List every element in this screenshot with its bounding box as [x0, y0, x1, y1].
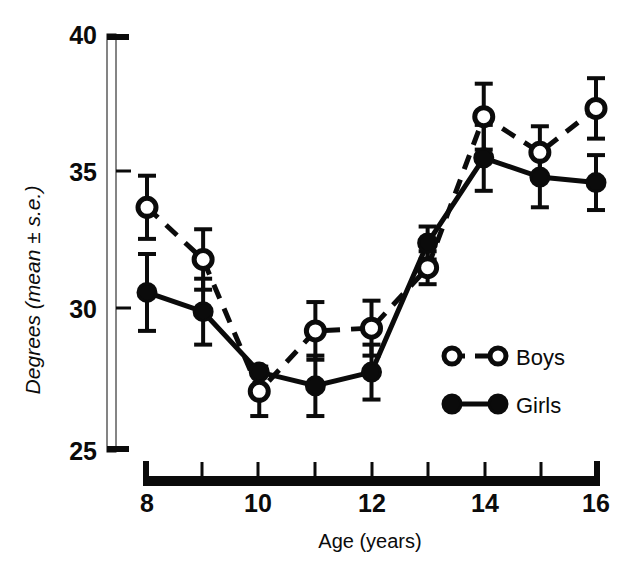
y-axis-spine: [107, 34, 116, 452]
legend-marker-boys-right: [490, 348, 506, 364]
data-point-girls-age-11: [306, 377, 324, 395]
legend-label-boys: Boys: [516, 345, 565, 370]
y-tick-label-35: 35: [69, 158, 97, 186]
data-point-girls-age-8: [138, 283, 156, 301]
y-axis-bottom-cap: [107, 446, 129, 452]
data-point-girls-age-13: [419, 234, 437, 252]
legend-entry-boys: Boys: [444, 345, 565, 370]
data-point-boys-age-12: [363, 319, 381, 337]
x-axis-title: Age (years): [318, 530, 421, 552]
chart-figure: 40 35 30 25 Degrees (mean ± s.e.) 8 10 1…: [0, 0, 627, 577]
y-tick-label-40: 40: [69, 21, 97, 49]
y-tick-label-25: 25: [69, 437, 97, 465]
data-point-girls-age-14: [475, 149, 493, 167]
data-point-boys-age-9: [194, 250, 212, 268]
legend-marker-girls-right: [489, 395, 507, 413]
data-point-girls-age-10: [250, 363, 268, 381]
x-tick-label-16: 16: [582, 489, 610, 517]
data-point-boys-age-10: [250, 382, 268, 400]
data-point-boys-age-14: [475, 108, 493, 126]
legend-entry-girls: Girls: [443, 393, 561, 418]
data-point-girls-age-12: [363, 363, 381, 381]
x-tick-label-10: 10: [244, 489, 272, 517]
y-axis-title: Degrees (mean ± s.e.): [21, 186, 44, 395]
chart-plot-area: 40 35 30 25 Degrees (mean ± s.e.) 8 10 1…: [0, 0, 627, 577]
legend-marker-boys-left: [444, 348, 460, 364]
x-tick-label-12: 12: [358, 489, 386, 517]
y-axis-top-cap: [107, 34, 129, 40]
y-tick-label-30: 30: [69, 295, 97, 323]
data-point-girls-age-15: [531, 168, 549, 186]
data-point-boys-age-15: [531, 143, 549, 161]
data-point-boys-age-16: [587, 99, 605, 117]
legend-marker-girls-left: [443, 395, 461, 413]
x-axis-left-cap: [143, 461, 149, 481]
chart-legend: Boys Girls: [443, 345, 565, 418]
legend-label-girls: Girls: [516, 393, 561, 418]
x-axis-right-cap: [594, 461, 600, 481]
data-point-boys-age-13: [419, 259, 437, 277]
data-point-boys-age-11: [306, 322, 324, 340]
x-tick-label-8: 8: [140, 489, 154, 517]
x-tick-label-14: 14: [471, 489, 499, 517]
data-point-girls-age-16: [587, 174, 605, 192]
data-point-girls-age-9: [194, 303, 212, 321]
data-point-boys-age-8: [138, 198, 156, 216]
